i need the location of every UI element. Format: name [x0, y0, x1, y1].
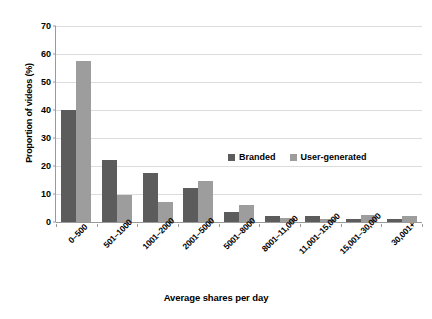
legend-item: User-generated: [290, 152, 367, 162]
bar-group: [137, 26, 178, 222]
x-axis-tick-cell: 0–500: [56, 224, 97, 290]
x-axis-tick-cell: 2001–5000: [178, 224, 219, 290]
bar-group: [300, 26, 341, 222]
x-axis-tick-label: 30,001+: [389, 220, 417, 248]
bar-branded: [305, 216, 320, 222]
bar-branded: [61, 110, 76, 222]
bar-group: [259, 26, 300, 222]
x-axis-tick-mark: [97, 224, 98, 227]
x-axis-tick-mark: [56, 224, 57, 227]
bar-branded: [265, 216, 280, 222]
y-axis-title: Proportion of videos (%): [24, 18, 34, 208]
x-axis-tick-mark: [422, 224, 423, 227]
x-axis-tick-mark: [259, 224, 260, 227]
bar-branded: [224, 212, 239, 222]
legend-item: Branded: [228, 152, 276, 162]
bar-branded: [183, 188, 198, 222]
y-axis-tick-label: 10: [41, 189, 51, 199]
y-axis-tick-label: 50: [41, 77, 51, 87]
bar-chart: Proportion of videos (%) 010203040506070…: [0, 0, 432, 319]
bar-groups: [56, 26, 422, 222]
x-axis-title: Average shares per day: [0, 292, 432, 303]
x-axis-tick-mark: [300, 224, 301, 227]
legend-swatch-icon: [228, 154, 235, 161]
bar-branded: [102, 160, 117, 222]
y-axis-tick-label: 30: [41, 133, 51, 143]
x-axis-tick-cell: 8001–11,000: [259, 224, 300, 290]
bar-group: [381, 26, 422, 222]
y-axis-tick-label: 0: [46, 217, 51, 227]
x-axis-tick-mark: [381, 224, 382, 227]
bar-branded: [143, 173, 158, 222]
x-axis-tick-cell: 5001–8000: [219, 224, 260, 290]
legend-swatch-icon: [290, 154, 297, 161]
bar-group: [178, 26, 219, 222]
y-axis-tick-label: 40: [41, 105, 51, 115]
x-axis-tick-cell: 501–1000: [97, 224, 138, 290]
bar-user-generated: [198, 181, 213, 222]
legend-label: User-generated: [301, 152, 367, 162]
x-axis-tick-mark: [137, 224, 138, 227]
bar-branded: [387, 219, 402, 222]
bar-group: [56, 26, 97, 222]
bar-group: [219, 26, 260, 222]
x-axis-tick-cell: 1001–2000: [137, 224, 178, 290]
x-axis-tick-mark: [341, 224, 342, 227]
bar-branded: [346, 219, 361, 222]
x-axis-tick-cell: 15,001–30,000: [341, 224, 382, 290]
y-axis-tick-label: 20: [41, 161, 51, 171]
y-axis-tick-label: 60: [41, 49, 51, 59]
bar-group: [341, 26, 382, 222]
x-axis-tick-label: 0–500: [67, 222, 90, 245]
bar-group: [97, 26, 138, 222]
legend-label: Branded: [239, 152, 276, 162]
chart-legend: BrandedUser-generated: [228, 152, 367, 162]
x-axis-tick-cell: 11,001–15,000: [300, 224, 341, 290]
y-axis-tick-label: 70: [41, 21, 51, 31]
plot-area: 010203040506070: [56, 26, 422, 222]
x-axis-tick-cell: 30,001+: [381, 224, 422, 290]
x-axis-tick-mark: [219, 224, 220, 227]
bar-user-generated: [76, 61, 91, 222]
x-axis-tick-labels: 0–500501–10001001–20002001–50005001–8000…: [56, 224, 422, 290]
x-axis-tick-mark: [178, 224, 179, 227]
